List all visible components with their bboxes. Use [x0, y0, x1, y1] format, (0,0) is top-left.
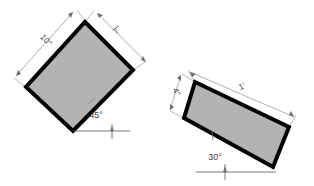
left-rectangle-group: 10" 7" 45° [14, 10, 146, 139]
right-dim-arrow-4in-end [170, 104, 174, 110]
right-angle-label: 30° [208, 152, 222, 162]
right-ext-line-left-lower [170, 111, 184, 118]
left-dim-arrow-7in-end [141, 56, 146, 62]
left-short-side-label: 7" [111, 24, 124, 37]
right-angle-tick-arrow [223, 166, 227, 172]
left-ext-line-top [77, 10, 85, 22]
left-ext-line-left [14, 78, 26, 87]
right-ext-line-top-right [289, 115, 296, 127]
right-short-side-label: 4" [171, 86, 183, 97]
geometry-figure: 10" 7" 45° [0, 0, 314, 186]
left-dim-arrow-7in-start [97, 13, 103, 18]
left-long-side-label: 10" [38, 32, 54, 48]
left-ext-line-top-right [85, 11, 94, 22]
left-angle-label: 45° [89, 110, 103, 120]
right-dimension-4in: 4" [170, 75, 183, 110]
right-long-side-label: 1' [237, 80, 247, 92]
figure-canvas: 10" 7" 45° [0, 0, 314, 186]
right-rectangle-group: 1' 4" 30° [170, 70, 296, 180]
left-angle-tick-arrow [110, 126, 114, 131]
left-ext-line-right [133, 62, 145, 70]
right-dim-arrow-4in-start [177, 75, 181, 81]
